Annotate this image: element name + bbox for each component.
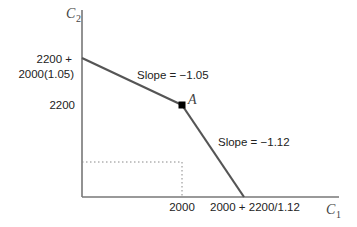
x-tick-right: 2000 + 2200/1.12 (210, 201, 300, 213)
budget-constraint-diagram: A C 2 C 1 2200 + 2000(1.05) 2200 2000 20… (0, 0, 357, 227)
x-axis-subscript: 1 (336, 209, 341, 220)
budget-line-upper-segment (82, 58, 182, 105)
y-tick-mid: 2200 (49, 99, 75, 111)
point-a-label: A (187, 92, 197, 107)
y-axis-subscript: 2 (76, 13, 81, 24)
y-axis-label: C (66, 6, 76, 21)
y-tick-top-line2: 2000(1.05) (18, 68, 74, 80)
x-tick-mid: 2000 (169, 201, 195, 213)
budget-line-lower-segment (182, 105, 244, 197)
y-tick-top-line1: 2200 + (37, 53, 73, 65)
slope-lower-label: Slope = −1.12 (218, 136, 290, 148)
slope-upper-label: Slope = −1.05 (137, 69, 209, 81)
point-a-marker (179, 102, 186, 109)
x-axis-label: C (326, 202, 336, 217)
